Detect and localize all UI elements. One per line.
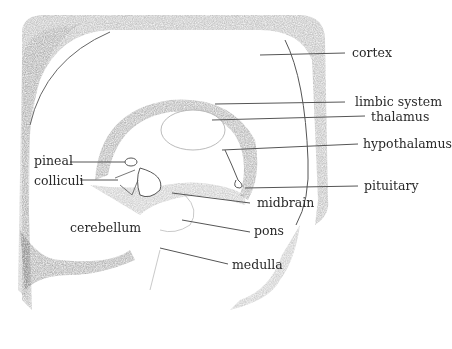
thalamus-shape xyxy=(161,110,225,150)
colliculi-shape xyxy=(138,168,161,197)
label-pituitary: pituitary xyxy=(364,180,419,193)
label-pons: pons xyxy=(254,225,284,238)
label-limbic-system: limbic system xyxy=(355,96,442,109)
pineal-shape xyxy=(125,158,137,166)
label-hypothalamus: hypothalamus xyxy=(363,138,452,151)
pituitary-shape xyxy=(225,150,242,188)
label-thalamus: thalamus xyxy=(371,111,429,124)
label-cerebellum: cerebellum xyxy=(70,222,141,235)
label-pineal: pineal xyxy=(34,155,73,168)
label-cortex: cortex xyxy=(352,47,392,60)
label-medulla: medulla xyxy=(232,259,283,272)
label-midbrain: midbrain xyxy=(257,197,314,210)
medulla-shape xyxy=(150,250,160,290)
label-colliculi: colliculi xyxy=(34,175,84,188)
